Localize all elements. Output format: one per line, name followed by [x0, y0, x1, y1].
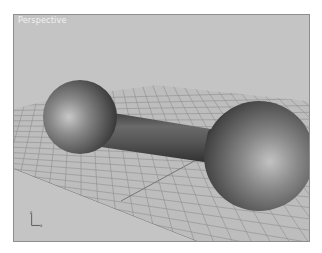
viewport-label[interactable]: Perspective: [18, 16, 67, 25]
scene-render[interactable]: [14, 15, 310, 242]
right-sphere: [204, 101, 310, 211]
axis-tripod-icon: z x: [28, 210, 48, 230]
x-axis-label: x: [40, 223, 43, 228]
left-sphere: [43, 80, 117, 154]
perspective-viewport[interactable]: Perspective z x: [13, 14, 310, 242]
z-axis-label: z: [30, 210, 33, 215]
